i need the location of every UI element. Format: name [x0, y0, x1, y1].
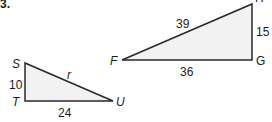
triangle-fgh — [122, 4, 252, 60]
vertex-f-label: F — [110, 54, 118, 68]
vertex-g-label: G — [256, 54, 265, 68]
diagram: 3. S T U 10 24 r F G H 39 15 36 — [0, 0, 272, 122]
vertex-u-label: U — [116, 95, 125, 109]
problem-number: 3. — [0, 0, 10, 11]
side-st-label: 10 — [9, 78, 23, 92]
vertex-t-label: T — [12, 95, 21, 109]
side-fg-label: 36 — [180, 65, 194, 79]
side-su-label: r — [67, 68, 72, 82]
vertex-s-label: S — [12, 57, 20, 71]
side-fh-label: 39 — [176, 17, 190, 31]
side-gh-label: 15 — [256, 25, 270, 39]
vertex-h-label: H — [255, 0, 264, 5]
side-tu-label: 24 — [58, 106, 72, 120]
